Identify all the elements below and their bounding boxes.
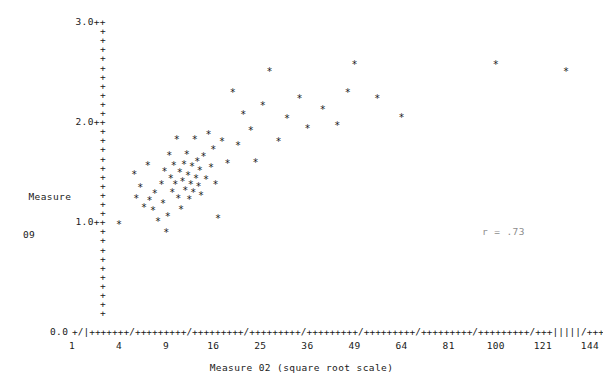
y-axis-title-line-2: 09 — [4, 225, 60, 244]
data-point — [166, 151, 173, 160]
x-axis-tick-label: 64 — [396, 340, 408, 352]
data-point — [284, 114, 291, 123]
data-point — [266, 67, 273, 76]
data-point — [164, 212, 171, 221]
data-point — [351, 60, 358, 69]
data-point — [146, 196, 153, 205]
data-point — [319, 105, 326, 114]
x-axis-tick-label: 121 — [534, 340, 552, 352]
data-point — [176, 168, 183, 177]
data-point — [116, 220, 123, 229]
x-axis-origin-label: 0.0 — [50, 326, 68, 338]
data-point — [183, 150, 190, 159]
data-point — [170, 161, 177, 170]
data-point — [178, 205, 185, 214]
y-axis-tick-label: + — [100, 307, 106, 318]
data-point — [235, 141, 242, 150]
x-axis-tick-label: 81 — [443, 340, 455, 352]
data-point — [137, 183, 144, 192]
data-point — [161, 167, 168, 176]
x-axis-tick-label: 100 — [487, 340, 505, 352]
y-axis-title: Measure 09 — [4, 168, 60, 282]
data-point — [240, 110, 247, 119]
x-axis-tick-label: 16 — [207, 340, 219, 352]
data-point — [190, 188, 197, 197]
x-axis-tick-label: 4 — [116, 340, 122, 352]
x-axis-line: +/|+++++++/+++++++++/+++++++++/+++++++++… — [72, 326, 596, 338]
data-point — [492, 60, 499, 69]
data-point — [141, 203, 148, 212]
data-point — [158, 180, 165, 189]
data-point — [180, 160, 187, 169]
data-point — [133, 194, 140, 203]
x-axis-tick-label: 25 — [254, 340, 266, 352]
data-point — [214, 214, 221, 223]
correlation-annotation: r = .73 — [482, 226, 525, 237]
data-point — [167, 174, 174, 183]
data-point — [185, 171, 192, 180]
data-point — [144, 161, 151, 170]
data-point — [191, 135, 198, 144]
data-point — [172, 180, 179, 189]
data-point — [224, 159, 231, 168]
data-point — [207, 163, 214, 172]
data-point — [252, 158, 259, 167]
data-point — [212, 180, 219, 189]
data-point — [334, 121, 341, 130]
data-point — [275, 137, 282, 146]
data-point — [296, 94, 303, 103]
data-point — [131, 170, 138, 179]
data-point — [203, 175, 210, 184]
x-axis-tick-labels: 149162536496481100121144 — [0, 340, 603, 354]
data-point — [205, 130, 212, 139]
data-point — [210, 145, 217, 154]
data-point — [195, 182, 202, 191]
data-point — [304, 124, 311, 133]
x-axis-tick-label: 9 — [163, 340, 169, 352]
data-point — [229, 88, 236, 97]
y-axis-tick: + — [60, 307, 106, 319]
data-point — [200, 152, 207, 161]
x-axis-tick-label: 36 — [301, 340, 313, 352]
data-point — [259, 101, 266, 110]
data-point — [247, 126, 254, 135]
data-point — [186, 195, 193, 204]
data-point — [218, 137, 225, 146]
data-point — [155, 217, 162, 226]
data-point — [198, 191, 205, 200]
data-point — [169, 188, 176, 197]
data-point — [562, 67, 569, 76]
data-point — [175, 194, 182, 203]
data-point — [163, 228, 170, 237]
data-point — [150, 206, 157, 215]
data-point — [179, 177, 186, 186]
data-point — [192, 174, 199, 183]
data-point — [189, 162, 196, 171]
data-point — [196, 166, 203, 175]
data-point — [194, 157, 201, 166]
data-point — [173, 135, 180, 144]
data-point — [398, 113, 405, 122]
data-point — [187, 180, 194, 189]
scatter-plot-figure: Measure 09 3.0++++++++++++2.0+++++++++++… — [0, 0, 603, 383]
data-point — [374, 94, 381, 103]
x-axis-tick-label: 49 — [348, 340, 360, 352]
x-axis-title: Measure 02 (square root scale) — [0, 362, 603, 373]
data-point — [344, 88, 351, 97]
x-axis-tick-label: 144 — [581, 340, 599, 352]
y-axis: 3.0++++++++++++2.0++++++++++++1.0+++++++… — [60, 16, 106, 334]
data-point — [151, 189, 158, 198]
x-axis-tick-label: 1 — [69, 340, 75, 352]
data-point — [160, 199, 167, 208]
data-point — [182, 186, 189, 195]
